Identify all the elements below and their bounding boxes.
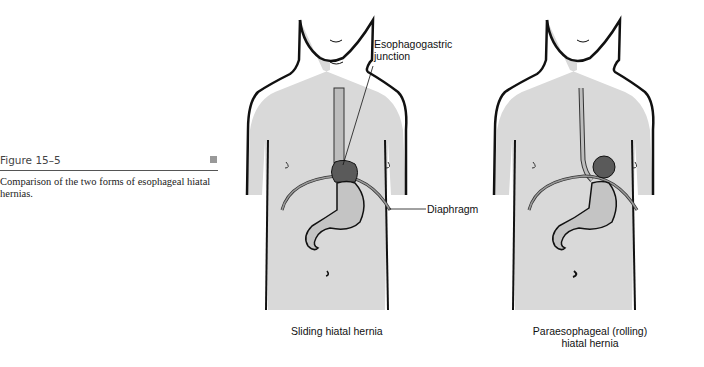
title-line: Paraesophageal (rolling) (515, 325, 665, 337)
title-paraesophageal-hernia: Paraesophageal (rolling) hiatal hernia (515, 325, 665, 349)
paraesophageal-hernia-illustration (0, 0, 704, 367)
title-line: hiatal hernia (515, 337, 665, 349)
